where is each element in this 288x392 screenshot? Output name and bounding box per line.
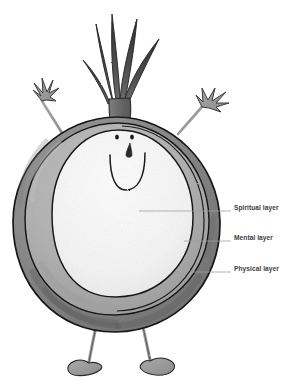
- diagram-canvas: Spiritual layer Mental layer Physical la…: [0, 0, 288, 392]
- right-foot: [140, 358, 174, 375]
- onion-character-illustration: [0, 0, 288, 392]
- left-eye: [115, 135, 119, 140]
- label-spiritual-layer: Spiritual layer: [234, 205, 279, 212]
- right-eye: [130, 135, 134, 140]
- label-physical-layer: Physical layer: [234, 266, 279, 273]
- left-hand: [33, 78, 59, 101]
- right-leg: [140, 322, 174, 375]
- left-foot: [68, 360, 102, 376]
- left-arm: [33, 78, 62, 133]
- inner-core-spiritual-layer: [52, 130, 193, 297]
- label-mental-layer: Mental layer: [234, 235, 273, 242]
- sprout-leaves: [83, 14, 159, 121]
- right-arm: [178, 88, 229, 134]
